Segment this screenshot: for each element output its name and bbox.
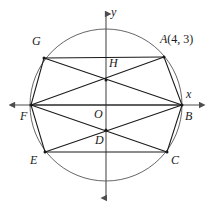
point-label-a-coords: (4, 3) bbox=[167, 32, 193, 46]
segment-c-b bbox=[167, 105, 182, 152]
segment-g-f bbox=[31, 58, 44, 105]
vertex-dot-h bbox=[105, 79, 108, 82]
vertex-dot-g bbox=[43, 57, 46, 60]
point-label-h: H bbox=[109, 57, 118, 69]
segment-e-b bbox=[45, 105, 182, 152]
segment-f-e bbox=[31, 105, 45, 152]
segment-g-a bbox=[44, 57, 164, 58]
geometry-figure: y x A(4, 3) B C D E F G H O bbox=[0, 0, 217, 213]
point-label-b: B bbox=[185, 110, 192, 122]
segment-a-b bbox=[164, 57, 182, 105]
vertex-dot-e bbox=[44, 151, 47, 154]
point-label-e: E bbox=[30, 154, 37, 166]
point-label-f: F bbox=[20, 110, 27, 122]
point-label-g: G bbox=[32, 35, 41, 47]
vertex-dot-b bbox=[181, 104, 184, 107]
vertex-dot-c bbox=[166, 151, 169, 154]
vertex-dot-a bbox=[163, 56, 166, 59]
origin-label: O bbox=[94, 108, 103, 120]
point-label-d: D bbox=[95, 134, 104, 146]
point-label-c: C bbox=[171, 154, 179, 166]
segment-a-f bbox=[31, 57, 164, 105]
vertex-dot-d bbox=[105, 129, 108, 132]
x-axis-label: x bbox=[186, 88, 191, 100]
point-label-a: A(4, 3) bbox=[160, 33, 193, 45]
y-axis-label: y bbox=[111, 6, 116, 18]
vertex-dot-f bbox=[30, 104, 33, 107]
